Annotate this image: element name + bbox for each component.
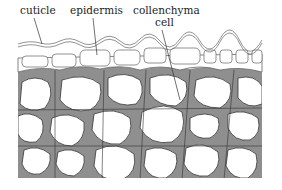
collenchyma-layer bbox=[18, 60, 264, 180]
tissue-illustration bbox=[0, 0, 282, 190]
epidermis-leader bbox=[93, 18, 97, 55]
cuticle-leader bbox=[34, 18, 42, 44]
epidermis-layer bbox=[18, 48, 262, 72]
